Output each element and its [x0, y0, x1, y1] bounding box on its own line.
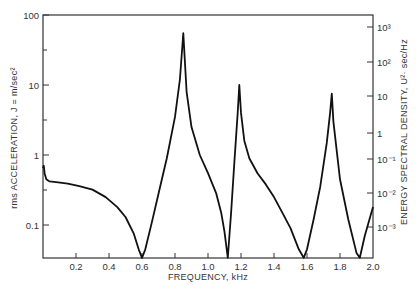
plot-frame [43, 15, 373, 258]
y-left-tick-label: 10 [28, 80, 39, 91]
x-tick-label: 0.4 [102, 261, 115, 272]
chart: 0.20.40.60.81.01.21.41.61.82.0 1001010.1… [0, 0, 416, 285]
y-right-tick-label: 1 [377, 128, 382, 139]
y-axis-left-title: rms ACCELERATION, J = m/sec² [9, 67, 19, 209]
x-tick-label: 2.0 [366, 261, 379, 272]
x-tick-label: 0.8 [168, 261, 181, 272]
x-axis-title: FREQUENCY, kHz [168, 272, 248, 282]
x-tick-label: 1.0 [201, 261, 214, 272]
acceleration-curve [43, 33, 373, 258]
y-right-tick-label: 10 [377, 91, 388, 102]
y-axis-left-ticks: 1001010.1 [23, 10, 49, 231]
x-tick-label: 1.2 [234, 261, 247, 272]
x-tick-label: 1.4 [267, 261, 280, 272]
y-right-tick-label: 10⁻¹ [377, 154, 396, 165]
x-tick-label: 1.8 [333, 261, 346, 272]
y-right-tick-label: 10⁻² [377, 188, 396, 199]
x-axis-ticks: 0.20.40.60.81.01.21.41.61.82.0 [69, 253, 379, 272]
y-axis-right-ticks: 10³10²10110⁻¹10⁻²10⁻³ [367, 22, 396, 233]
x-tick-label: 0.2 [69, 261, 82, 272]
x-tick-label: 1.6 [300, 261, 313, 272]
y-right-tick-label: 10⁻³ [377, 222, 396, 233]
y-axis-right-title: ENERGY SPECTRAL DENSITY, U²· sec/Hz [399, 39, 409, 225]
x-tick-label: 0.6 [135, 261, 148, 272]
y-left-tick-label: 1 [34, 150, 39, 161]
y-left-tick-label: 100 [23, 10, 39, 21]
plot-border [43, 15, 373, 258]
y-right-tick-label: 10² [377, 57, 391, 68]
y-left-tick-label: 0.1 [26, 220, 39, 231]
y-right-tick-label: 10³ [377, 22, 391, 33]
